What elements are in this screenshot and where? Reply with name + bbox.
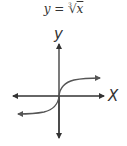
curve-negative-branch	[18, 96, 59, 114]
cube-root-graph: y X	[0, 0, 127, 146]
curve-positive-branch	[59, 78, 100, 96]
x-axis-label: X	[107, 87, 119, 105]
y-axis-label: y	[53, 25, 64, 43]
